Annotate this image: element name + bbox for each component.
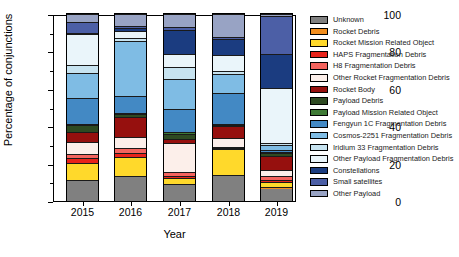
bar-segment xyxy=(67,73,98,98)
legend-label: H8 Fragmentation Debris xyxy=(333,62,416,69)
bar-segment xyxy=(213,39,244,55)
bar-segment xyxy=(213,176,244,201)
legend-item[interactable]: Payload Mission Related Object xyxy=(310,107,458,119)
bar-segment xyxy=(164,185,195,201)
legend-label: Other Payload Fragmentation Debris xyxy=(333,155,453,162)
legend-label: Constellations xyxy=(333,167,379,174)
x-tick-label: 2016 xyxy=(108,206,154,218)
bar-segment xyxy=(67,142,98,154)
x-tick-label: 2019 xyxy=(254,206,300,218)
legend-swatch-icon xyxy=(310,97,328,105)
bar-segment xyxy=(213,126,244,138)
bar-segment xyxy=(164,14,195,27)
x-tick-label: 2017 xyxy=(157,206,203,218)
legend-label: Fengyun 1C Fragmentation Debris xyxy=(333,120,446,127)
legend-swatch-icon xyxy=(310,74,328,82)
legend-label: Other Rocket Fragmentation Debris xyxy=(333,74,450,81)
x-tick-mark xyxy=(83,202,84,206)
bar-segment xyxy=(261,88,292,143)
bar-segment xyxy=(67,98,98,124)
legend-item[interactable]: Rocket Mission Related Object xyxy=(310,37,458,49)
legend-item[interactable]: Rocket Body xyxy=(310,84,458,96)
bars-layer xyxy=(53,15,296,202)
legend-item[interactable]: Cosmos-2251 Fragmentation Debris xyxy=(310,130,458,142)
bar-segment xyxy=(261,189,292,201)
bar-segment xyxy=(67,14,98,22)
x-tick-mark xyxy=(229,202,230,206)
legend-item[interactable]: Payload Debris xyxy=(310,95,458,107)
bar-segment xyxy=(213,55,244,71)
legend-label: Cosmos-2251 Fragmentation Debris xyxy=(333,132,452,139)
bar-segment xyxy=(164,79,195,109)
x-axis-label: Year xyxy=(53,228,296,240)
legend-swatch-icon xyxy=(310,155,328,163)
bar-2015 xyxy=(66,13,99,202)
legend-label: Rocket Debris xyxy=(333,28,379,35)
legend-label: Rocket Mission Related Object xyxy=(333,39,434,46)
legend-swatch-icon xyxy=(310,39,328,47)
legend-label: Other Payload xyxy=(333,190,380,197)
legend-swatch-icon xyxy=(310,132,328,140)
bar-segment xyxy=(164,54,195,67)
bar-segment xyxy=(164,109,195,131)
legend-item[interactable]: Unknown xyxy=(310,14,458,26)
bar-segment xyxy=(261,54,292,88)
x-tick-mark xyxy=(277,202,278,206)
legend-swatch-icon xyxy=(310,86,328,94)
legend-swatch-icon xyxy=(310,62,328,70)
legend-item[interactable]: Constellations xyxy=(310,165,458,177)
legend-item[interactable]: Iridium 33 Fragmentation Debris xyxy=(310,142,458,154)
x-tick-mark xyxy=(131,202,132,206)
bar-segment xyxy=(261,16,292,54)
bar-segment xyxy=(213,14,244,37)
x-tick-label: 2018 xyxy=(206,206,252,218)
bar-segment xyxy=(67,34,98,65)
bar-segment xyxy=(115,96,146,113)
legend-item[interactable]: Other Rocket Fragmentation Debris xyxy=(310,72,458,84)
legend-swatch-icon xyxy=(310,28,328,36)
bar-segment xyxy=(164,143,195,172)
bar-segment xyxy=(115,157,146,176)
legend-swatch-icon xyxy=(310,120,328,128)
legend-swatch-icon xyxy=(310,190,328,198)
bar-segment xyxy=(115,137,146,148)
bar-segment xyxy=(115,117,146,137)
legend-item[interactable]: Fengyun 1C Fragmentation Debris xyxy=(310,118,458,130)
legend-item[interactable]: Other Payload xyxy=(310,188,458,200)
bar-segment xyxy=(115,177,146,201)
y-axis-label: Percentage of conjunctions xyxy=(2,0,14,180)
legend-label: Payload Debris xyxy=(333,97,383,104)
x-tick-label: 2015 xyxy=(60,206,106,218)
bar-segment xyxy=(164,67,195,79)
legend-swatch-icon xyxy=(310,109,328,117)
x-tick-mark xyxy=(180,202,181,206)
legend-label: Payload Mission Related Object xyxy=(333,109,438,116)
legend-label: Iridium 33 Fragmentation Debris xyxy=(333,144,439,151)
legend-item[interactable]: HAPS Fragmentation Debris xyxy=(310,49,458,61)
bar-segment xyxy=(67,163,98,180)
bar-2018 xyxy=(212,13,245,202)
bar-segment xyxy=(213,138,244,146)
bar-segment xyxy=(213,93,244,124)
legend-label: Unknown xyxy=(333,16,364,23)
bar-segment xyxy=(261,156,292,170)
bar-segment xyxy=(164,30,195,54)
bar-segment xyxy=(115,41,146,96)
legend-label: HAPS Fragmentation Debris xyxy=(333,51,426,58)
bar-segment xyxy=(67,181,98,201)
bar-2016 xyxy=(114,13,147,202)
legend-item[interactable]: Other Payload Fragmentation Debris xyxy=(310,153,458,165)
bar-segment xyxy=(67,65,98,73)
bar-2019 xyxy=(260,13,293,202)
legend-swatch-icon xyxy=(310,167,328,175)
bar-segment xyxy=(115,14,146,26)
legend-swatch-icon xyxy=(310,144,328,152)
y-tick-mark xyxy=(48,202,53,203)
legend-swatch-icon xyxy=(310,178,328,186)
legend-item[interactable]: Rocket Debris xyxy=(310,26,458,38)
legend-swatch-icon xyxy=(310,51,328,59)
legend-label: Rocket Body xyxy=(333,86,375,93)
legend-label: Small satellites xyxy=(333,178,382,185)
legend-item[interactable]: H8 Fragmentation Debris xyxy=(310,60,458,72)
legend-item[interactable]: Small satellites xyxy=(310,176,458,188)
